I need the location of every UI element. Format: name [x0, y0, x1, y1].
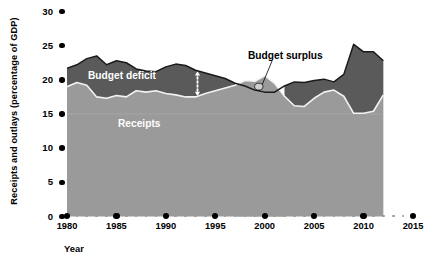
budget-deficit-label: Budget deficit	[88, 70, 156, 81]
y-tick-label: 15	[42, 108, 53, 120]
y-tick-5: 5	[22, 176, 66, 188]
x-tick-label: 2005	[294, 221, 334, 231]
y-tick-dot	[59, 145, 65, 151]
y-tick-dot	[59, 43, 65, 49]
budget-surplus-label: Budget surplus	[248, 50, 323, 61]
x-tick-label: 1990	[146, 221, 186, 231]
x-tick-label: 2015	[393, 221, 431, 231]
x-tick-label: 1995	[195, 221, 235, 231]
y-tick-25: 25	[22, 40, 66, 52]
y-axis-title: Receipts and outlays (percentage of GDP)	[9, 1, 19, 221]
x-tick-label: 2000	[245, 221, 285, 231]
x-tick-label: 1980	[47, 221, 87, 231]
y-tick-label: 5	[48, 176, 53, 188]
y-tick-label: 20	[42, 74, 53, 86]
y-tick-dot	[59, 9, 65, 15]
y-tick-15: 15	[22, 108, 66, 120]
y-tick-30: 30	[22, 6, 66, 18]
y-tick-label: 10	[42, 142, 53, 154]
x-tick-label: 2010	[344, 221, 384, 231]
x-tick-label: 1985	[96, 221, 136, 231]
x-tick-dot-major	[262, 213, 268, 219]
x-axis-title: Year	[44, 243, 104, 254]
y-tick-label: 30	[42, 6, 53, 18]
y-tick-dot	[59, 77, 65, 83]
y-tick-10: 10	[22, 142, 66, 154]
x-tick-dot-major	[360, 213, 366, 219]
x-tick-dot-major	[113, 213, 119, 219]
y-tick-dot	[59, 180, 65, 186]
chart-figure: Receipts and outlays (percentage of GDP)…	[0, 0, 431, 265]
outlays-label: Outlays	[118, 38, 155, 49]
y-tick-label: 25	[42, 40, 53, 52]
y-tick-dot	[59, 111, 65, 117]
receipts-label: Receipts	[118, 118, 160, 129]
y-tick-20: 20	[22, 74, 66, 86]
